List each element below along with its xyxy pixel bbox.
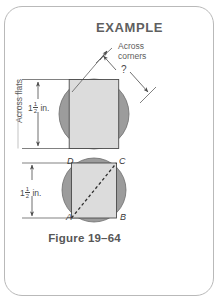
upper-dim-unit: in. bbox=[40, 103, 49, 113]
lower-dim-whole: 1 bbox=[20, 188, 25, 198]
across-corners-tick-bottom bbox=[140, 87, 156, 103]
lower-dimension-label: 112 in. bbox=[20, 186, 41, 199]
across-flats-label: Across flats bbox=[14, 70, 24, 132]
across-corners-label: Across corners bbox=[118, 41, 146, 61]
lower-dim-numerator: 1 bbox=[25, 186, 29, 193]
upper-dim-numerator: 1 bbox=[33, 101, 37, 108]
across-corners-line-1: Across bbox=[118, 41, 146, 51]
across-corners-dim-upper-half bbox=[104, 56, 117, 70]
unknown-dimension-label: ? bbox=[121, 64, 127, 75]
vertex-label-b: B bbox=[120, 212, 126, 222]
upper-figure bbox=[18, 48, 156, 149]
across-corners-line-2: corners bbox=[118, 51, 146, 61]
upper-dim-fraction: 12 bbox=[33, 101, 37, 114]
lower-dim-fraction: 12 bbox=[25, 186, 29, 199]
figure-caption: Figure 19–64 bbox=[0, 232, 169, 244]
vertex-label-a: A bbox=[66, 212, 72, 222]
upper-dim-denominator: 2 bbox=[33, 108, 37, 114]
across-corners-dim-lower-half bbox=[130, 72, 148, 92]
upper-dim-whole: 1 bbox=[28, 103, 33, 113]
across-corners-tick-top bbox=[96, 48, 112, 63]
upper-square bbox=[69, 80, 119, 149]
lower-dim-unit: in. bbox=[32, 188, 41, 198]
vertex-label-c: C bbox=[119, 156, 126, 166]
lower-dim-denominator: 2 bbox=[25, 193, 29, 199]
vertex-label-d: D bbox=[67, 156, 74, 166]
upper-dimension-label: 112 in. bbox=[28, 101, 49, 114]
